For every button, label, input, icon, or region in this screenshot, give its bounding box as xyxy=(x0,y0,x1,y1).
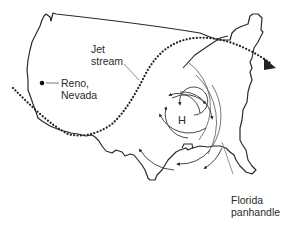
jet-stream-arrowhead xyxy=(264,58,276,70)
high-pressure-label: H xyxy=(178,114,186,126)
jet-stream-label: Jet stream xyxy=(91,44,123,67)
us-map-diagram xyxy=(0,0,291,226)
jet-stream-path xyxy=(13,38,272,136)
florida-panhandle-label: Florida panhandle xyxy=(231,195,280,218)
reno-label: Reno, Nevada xyxy=(61,78,97,101)
high-pressure-system xyxy=(188,62,221,154)
jet-stream-leader xyxy=(124,64,139,80)
reno-dot xyxy=(40,81,45,86)
florida-leader xyxy=(222,142,233,174)
